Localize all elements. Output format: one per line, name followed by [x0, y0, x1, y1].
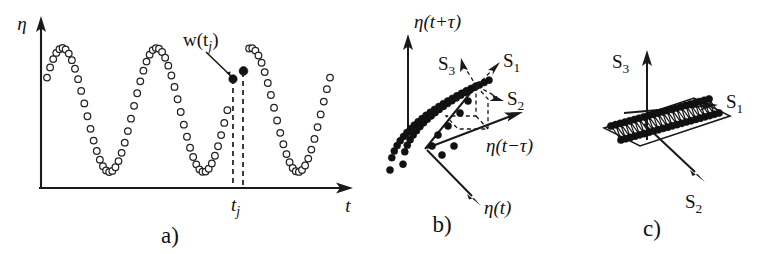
panel-b-label-eta-t: η(t)	[484, 197, 511, 219]
S1-index: 1	[514, 60, 521, 75]
attractor-point	[429, 143, 436, 150]
waveform-sample	[317, 111, 324, 118]
w-bold-letter: w	[183, 29, 197, 50]
panel-a: η t w(tj) tj a)	[0, 0, 380, 254]
waveform-sample	[93, 148, 100, 155]
attractor-point	[451, 143, 458, 150]
waveform-sample	[47, 64, 54, 71]
panel-b-axis-eta-t	[427, 150, 481, 206]
waveform-sample	[75, 76, 82, 83]
panel-a-waveform-markers	[44, 45, 334, 176]
panel-a-x-axis-label: t	[345, 195, 351, 216]
panel-a-w-vector-points	[229, 67, 248, 84]
waveform-sample	[274, 117, 281, 124]
c-S3-index: 3	[623, 61, 630, 76]
panel-b-label-eta-t-minus-tau: η(t−τ)	[486, 135, 533, 157]
waveform-sample	[218, 132, 225, 139]
waveform-sample	[209, 160, 216, 167]
panel-b-label-S3: S3	[438, 53, 456, 78]
waveform-sample	[224, 107, 231, 114]
waveform-sample	[302, 162, 309, 169]
c-S1-index: 1	[737, 101, 744, 116]
waveform-sample	[165, 62, 172, 69]
waveform-sample	[90, 137, 97, 144]
waveform-sample	[134, 90, 141, 97]
waveform-sample	[65, 50, 72, 57]
panel-a-x-axis	[39, 183, 353, 194]
panel-c-zigzag-trajectory	[607, 95, 722, 143]
panel-a-tj-tick-label: tj	[231, 194, 240, 219]
panel-c-label-S1: S1	[726, 91, 743, 116]
waveform-sample	[215, 143, 222, 150]
S2-letter: S	[507, 88, 518, 109]
waveform-sample	[268, 92, 275, 99]
waveform-sample	[140, 67, 147, 74]
waveform-sample	[308, 146, 315, 153]
waveform-sample	[280, 141, 287, 148]
c-S3-letter: S	[612, 51, 623, 72]
waveform-sample	[87, 126, 94, 133]
projected-point	[715, 109, 722, 116]
panel-b-label-S1: S1	[503, 50, 520, 75]
waveform-sample	[261, 69, 268, 76]
panel-a-caption: a)	[161, 223, 179, 248]
waveform-sample	[305, 155, 312, 162]
panel-b: η(t+τ) η(t−τ) η(t)	[380, 0, 590, 254]
waveform-sample	[311, 136, 318, 143]
attractor-point	[465, 98, 472, 105]
attractor-point	[400, 161, 407, 168]
waveform-sample	[137, 78, 144, 85]
panel-c-caption: c)	[643, 216, 661, 241]
waveform-sample	[184, 133, 191, 140]
waveform-sample	[221, 120, 228, 127]
S1-letter: S	[503, 50, 514, 71]
panel-b-caption: b)	[432, 212, 451, 237]
waveform-sample	[190, 154, 197, 161]
attractor-point	[445, 123, 452, 130]
waveform-sample	[115, 158, 122, 165]
w-paren-close: )	[212, 29, 218, 51]
c-S2-letter: S	[685, 191, 696, 212]
attractor-point	[435, 132, 442, 139]
waveform-sample	[97, 156, 104, 163]
attractor-point	[486, 77, 493, 84]
panel-b-label-S2: S2	[507, 88, 524, 113]
panel-b-label-eta-t-plus-tau: η(t+τ)	[414, 11, 461, 33]
waveform-sample	[171, 84, 178, 91]
panel-a-y-axis	[36, 16, 46, 188]
panel-a-w-vector-label: w(tj)	[183, 29, 218, 54]
figure-root: η t w(tj) tj a)	[0, 0, 774, 254]
panel-b-attractor-points	[387, 77, 493, 174]
waveform-sample	[187, 144, 194, 151]
panel-c: S3 S1 S2 c)	[590, 0, 774, 254]
waveform-sample	[50, 56, 57, 63]
waveform-sample	[125, 128, 132, 135]
S2-index: 2	[518, 98, 525, 113]
projected-point	[705, 95, 712, 102]
waveform-sample	[277, 130, 284, 137]
waveform-sample	[177, 109, 184, 116]
waveform-sample	[72, 65, 79, 72]
waveform-sample	[143, 58, 150, 65]
waveform-sample	[181, 121, 188, 128]
waveform-sample	[168, 72, 175, 79]
attractor-point	[388, 154, 395, 161]
waveform-sample	[81, 100, 88, 107]
waveform-sample	[174, 96, 181, 103]
waveform-sample	[162, 54, 169, 61]
waveform-sample	[320, 98, 327, 105]
waveform-sample	[255, 52, 262, 59]
S3-index: 3	[449, 63, 456, 78]
S3-letter: S	[438, 53, 449, 74]
waveform-sample	[283, 151, 290, 158]
waveform-sample	[324, 86, 331, 93]
panel-c-label-S2: S2	[685, 191, 702, 216]
waveform-sample	[265, 80, 272, 87]
waveform-sample	[84, 113, 91, 120]
panel-c-label-S3: S3	[612, 51, 630, 76]
waveform-sample	[128, 115, 135, 122]
waveform-sample	[69, 57, 76, 64]
attractor-point	[387, 167, 394, 174]
waveform-sample	[271, 104, 278, 111]
waveform-sample	[258, 59, 265, 66]
